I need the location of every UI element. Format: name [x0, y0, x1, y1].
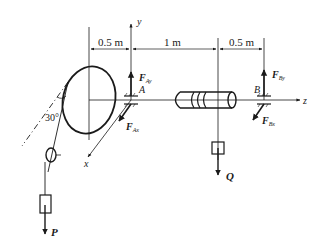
dim-label-1: 0.5 m: [98, 37, 123, 48]
angle-label: 30°: [45, 113, 59, 123]
load-Q-label: Q: [226, 171, 234, 182]
load-P-label: P: [51, 227, 58, 238]
y-axis-label: y: [137, 17, 141, 27]
dim-label-2: 1 m: [164, 37, 181, 48]
force-FBx-label: FBx: [262, 116, 275, 127]
force-FAy-label: FAy: [139, 73, 152, 84]
dim-label-3: 0.5 m: [229, 37, 254, 48]
z-axis-label: z: [303, 96, 307, 106]
force-FBy-label: FBy: [272, 70, 285, 81]
support-B-label: B: [254, 85, 260, 95]
mechanics-diagram: [0, 0, 326, 251]
support-A-label: A: [139, 85, 145, 95]
force-FAx-label: FAx: [126, 122, 139, 133]
x-axis-label: x: [84, 159, 88, 169]
x-axis: [88, 100, 131, 157]
